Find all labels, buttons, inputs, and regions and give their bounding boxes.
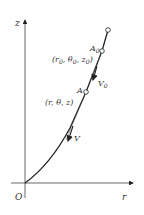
point-a0-circle <box>100 49 105 54</box>
trajectory-diagram: z r O A0 (r0, θ0, z0) V0 A (r, θ, z) V <box>0 0 144 215</box>
v-label: V <box>74 134 81 143</box>
point-a-circle <box>84 90 89 95</box>
v0-label: V0 <box>98 79 108 89</box>
r-axis-label: r <box>122 192 127 202</box>
point-a0-label: A0 <box>89 44 100 54</box>
end-point-circle <box>106 28 111 33</box>
point-a-coords: (r, θ, z) <box>45 98 73 107</box>
origin-label: O <box>15 192 23 202</box>
point-a0-coords: (r0, θ0, z0) <box>52 55 93 65</box>
z-axis-label: z <box>14 18 20 28</box>
point-a-label: A <box>76 86 83 95</box>
